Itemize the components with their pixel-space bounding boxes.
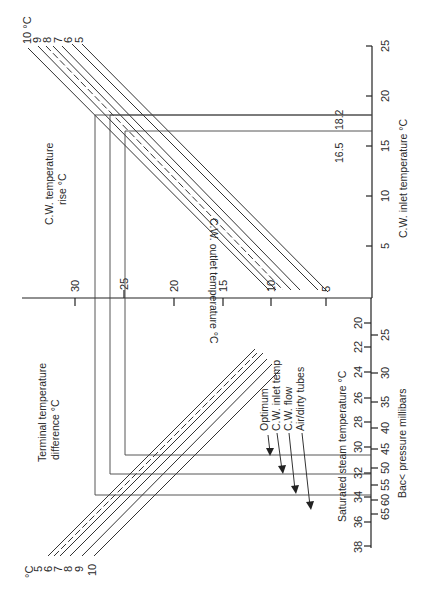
steam-tick-36: 36 xyxy=(352,516,364,528)
pressure-label: Bac< pressure millibars xyxy=(396,389,408,498)
inlet-ticks xyxy=(366,46,372,246)
inlet-tick-10: 10 xyxy=(379,190,391,202)
rise-lines xyxy=(28,44,328,292)
annotation-cw-flow: C.W. flow xyxy=(282,386,294,431)
steam-tick-34: 34 xyxy=(352,491,364,503)
rise-5: 5 xyxy=(73,37,85,43)
ttd-9: 9 xyxy=(73,566,85,572)
outlet-tick-5: 5 xyxy=(320,286,332,292)
inlet-tick-5: 5 xyxy=(379,243,391,249)
steam-tick-38: 38 xyxy=(352,541,364,553)
pressure-tick-60: 60 xyxy=(379,494,391,506)
cw-rise-label-1: C.W. temperature xyxy=(43,143,55,225)
inlet-value-16-5: 16.5 xyxy=(333,142,345,163)
steam-tick-20: 20 xyxy=(352,317,364,329)
outlet-tick-10: 10 xyxy=(265,280,277,292)
pressure-ticks xyxy=(371,335,378,514)
steam-tick-32: 32 xyxy=(352,467,364,479)
annotation-air-dirty-tubes: Air/dirty tubes xyxy=(294,367,306,431)
guide-lines xyxy=(95,115,372,495)
steam-tick-30: 30 xyxy=(352,441,364,453)
pressure-tick-55: 55 xyxy=(379,479,391,491)
annotation-arrows xyxy=(266,433,314,510)
outlet-tick-25: 25 xyxy=(118,278,130,290)
cw-rise-label-2: rise °C xyxy=(56,173,68,205)
pressure-tick-25: 25 xyxy=(379,329,391,341)
inlet-value-18-2: 18.2 xyxy=(333,109,345,130)
ttd-label-2: difference °C xyxy=(49,399,61,460)
outlet-tick-20: 20 xyxy=(168,280,180,292)
inlet-tick-20: 20 xyxy=(379,90,391,102)
ttd-lines xyxy=(48,349,280,556)
steam-tick-24: 24 xyxy=(352,366,364,378)
annotation-cw-inlet-temp: C.W. inlet temp xyxy=(270,360,282,431)
inlet-tick-15: 15 xyxy=(379,140,391,152)
ttd-label-1: Terminal temperature xyxy=(36,363,48,462)
pressure-tick-65: 65 xyxy=(379,508,391,520)
pressure-tick-50: 50 xyxy=(379,462,391,474)
steam-tick-22: 22 xyxy=(352,341,364,353)
pressure-tick-45: 45 xyxy=(379,443,391,455)
outlet-tick-30: 30 xyxy=(69,280,81,292)
steam-temp-label: Saturated steam temperature °C xyxy=(336,370,348,522)
steam-tick-28: 28 xyxy=(352,416,364,428)
pressure-tick-40: 40 xyxy=(379,422,391,434)
annotation-optimum: Optimum xyxy=(258,388,270,431)
ttd-10: 10 xyxy=(86,564,98,576)
condenser-nomogram: 30 25 20 15 10 5 C.W. outlet temperature… xyxy=(0,0,426,589)
outlet-temp-label: C.W. outlet temperature °C xyxy=(208,218,220,344)
steam-temp-ticks xyxy=(364,323,371,546)
inlet-temp-label: C.W. inlet temperature °C xyxy=(397,118,409,238)
steam-tick-26: 26 xyxy=(352,392,364,404)
pressure-tick-30: 30 xyxy=(379,367,391,379)
pressure-tick-35: 35 xyxy=(379,396,391,408)
inlet-tick-25: 25 xyxy=(379,40,391,52)
